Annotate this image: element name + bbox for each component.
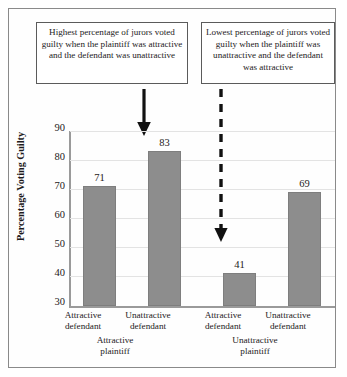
bar-attractive-plaintiff-unattractive-defendant xyxy=(148,151,181,306)
x-label-line2: defendant xyxy=(190,321,256,332)
y-tick-80: 80 xyxy=(43,152,65,163)
x-group-label-attractive-plaintiff: Attractive plaintiff xyxy=(55,335,175,357)
x-axis-line xyxy=(69,306,335,308)
x-label-line1: Attractive xyxy=(190,310,256,321)
bar-unattractive-plaintiff-unattractive-defendant xyxy=(288,192,321,306)
y-tick-90: 90 xyxy=(43,123,65,134)
bar-value-71: 71 xyxy=(80,172,120,183)
bar-attractive-plaintiff-attractive-defendant xyxy=(83,186,116,306)
x-label-group1-attractive-defendant: Attractive defendant xyxy=(50,310,116,332)
y-axis-title: Percentage Voting Guilty xyxy=(15,102,26,272)
x-label-group2-attractive-defendant: Attractive defendant xyxy=(190,310,256,332)
bar-unattractive-plaintiff-attractive-defendant xyxy=(223,273,256,306)
y-tick-40: 40 xyxy=(43,268,65,279)
y-tick-50: 50 xyxy=(43,239,65,250)
bar-value-83: 83 xyxy=(145,137,185,148)
x-group-label-line1: Attractive xyxy=(55,335,175,346)
y-tick-30: 30 xyxy=(43,297,65,308)
gridline-80 xyxy=(70,160,335,161)
x-label-group2-unattractive-defendant: Unattractive defendant xyxy=(255,310,321,332)
bar-value-69: 69 xyxy=(285,178,325,189)
x-label-group1-unattractive-defendant: Unattractive defendant xyxy=(115,310,181,332)
y-tick-70: 70 xyxy=(43,181,65,192)
x-group-label-unattractive-plaintiff: Unattractive plaintiff xyxy=(195,335,315,357)
x-group-label-line1: Unattractive xyxy=(195,335,315,346)
x-label-line2: defendant xyxy=(50,321,116,332)
x-label-line1: Unattractive xyxy=(255,310,321,321)
x-group-label-line2: plaintiff xyxy=(195,346,315,357)
bar-value-41: 41 xyxy=(220,259,260,270)
plot-area: 71 83 41 69 xyxy=(70,131,335,306)
solid-down-arrow-icon xyxy=(136,89,152,137)
gridline-90 xyxy=(70,131,335,132)
x-label-line2: defendant xyxy=(115,321,181,332)
x-group-label-line2: plaintiff xyxy=(55,346,175,357)
x-label-line1: Attractive xyxy=(50,310,116,321)
annotation-callout-lowest: Lowest percentage of jurors voted guilty… xyxy=(201,22,335,84)
y-tick-60: 60 xyxy=(43,210,65,221)
x-label-line1: Unattractive xyxy=(115,310,181,321)
figure-frame: Highest percentage of jurors voted guilt… xyxy=(8,8,336,368)
x-label-line2: defendant xyxy=(255,321,321,332)
